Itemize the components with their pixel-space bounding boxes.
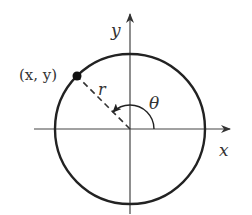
radius-label: r: [98, 80, 107, 99]
point-label: (x, y): [19, 66, 57, 84]
x-axis-label: x: [219, 140, 229, 160]
polar-diagram: y x (x, y) r θ: [0, 0, 252, 215]
y-axis-label: y: [110, 20, 121, 40]
angle-label: θ: [149, 93, 159, 113]
angle-arc: [113, 105, 154, 129]
point-marker: [73, 72, 82, 81]
